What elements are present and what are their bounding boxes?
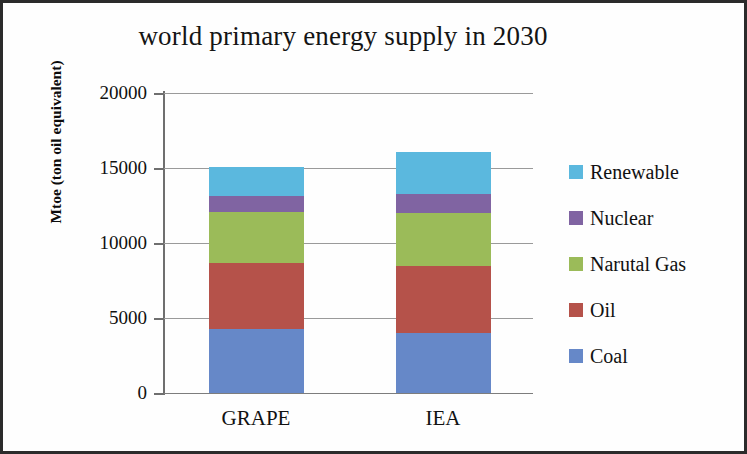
- bar-segment-grape-oil[interactable]: [209, 263, 304, 330]
- bar-segment-iea-nuclear[interactable]: [396, 194, 491, 214]
- bar-stack-grape[interactable]: [209, 167, 304, 394]
- legend-item-oil[interactable]: Oil: [569, 287, 739, 333]
- legend-label: Coal: [590, 345, 628, 367]
- legend-label: Oil: [590, 299, 616, 321]
- gridline-0: [163, 393, 533, 394]
- plot-area: [163, 93, 533, 393]
- legend-label: Narutal Gas: [590, 253, 686, 275]
- chart-title: world primary energy supply in 2030: [63, 19, 623, 53]
- legend-label: Nuclear: [590, 207, 653, 229]
- y-tick-label-10000: 10000: [27, 233, 147, 252]
- figure-frame: world primary energy supply in 2030 Mtoe…: [0, 0, 747, 454]
- y-tick-label-5000: 5000: [27, 308, 147, 327]
- chart-legend: RenewableNuclearNarutal GasOilCoal: [569, 149, 739, 379]
- bar-segment-grape-renewable[interactable]: [209, 167, 304, 196]
- legend-swatch-icon-narutal-gas: [569, 257, 583, 271]
- legend-item-renewable[interactable]: Renewable: [569, 149, 739, 195]
- gridline-20000: [163, 93, 533, 94]
- bar-stack-iea[interactable]: [396, 152, 491, 393]
- legend-item-coal[interactable]: Coal: [569, 333, 739, 379]
- y-tick-mark-20000: [154, 93, 164, 95]
- legend-item-narutal-gas[interactable]: Narutal Gas: [569, 241, 739, 287]
- x-tick-label-grape: GRAPE: [166, 405, 346, 431]
- bar-segment-grape-coal[interactable]: [209, 329, 304, 393]
- y-axis-tick-labels: 05000100001500020000: [21, 3, 147, 454]
- legend-swatch-icon-nuclear: [569, 211, 583, 225]
- y-tick-label-20000: 20000: [27, 83, 147, 102]
- bar-segment-grape-narutal-gas[interactable]: [209, 212, 304, 263]
- y-tick-label-15000: 15000: [27, 158, 147, 177]
- legend-label: Renewable: [590, 161, 679, 183]
- x-tick-label-iea: IEA: [353, 405, 533, 431]
- bar-segment-iea-narutal-gas[interactable]: [396, 213, 491, 266]
- legend-swatch-icon-oil: [569, 303, 583, 317]
- y-tick-mark-10000: [154, 243, 164, 245]
- chart-canvas: world primary energy supply in 2030 Mtoe…: [3, 3, 744, 451]
- bar-segment-iea-oil[interactable]: [396, 266, 491, 333]
- legend-swatch-icon-coal: [569, 349, 583, 363]
- y-tick-mark-0: [154, 393, 164, 395]
- legend-swatch-icon-renewable: [569, 165, 583, 179]
- legend-item-nuclear[interactable]: Nuclear: [569, 195, 739, 241]
- y-tick-mark-15000: [154, 168, 164, 170]
- y-tick-mark-5000: [154, 318, 164, 320]
- bar-segment-iea-renewable[interactable]: [396, 152, 491, 193]
- bar-segment-iea-coal[interactable]: [396, 333, 491, 393]
- bar-segment-grape-nuclear[interactable]: [209, 196, 304, 212]
- y-tick-label-0: 0: [27, 383, 147, 402]
